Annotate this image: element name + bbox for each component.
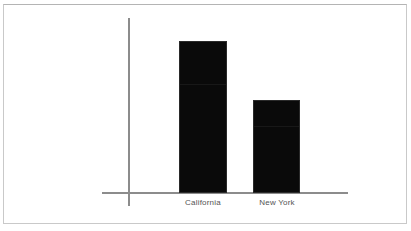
chart-screenshot: California New York — [0, 0, 411, 231]
x-axis-tick-label-california: California — [163, 198, 243, 208]
bar-new-york[interactable] — [253, 100, 300, 193]
x-axis-tick-label-new-york: New York — [237, 198, 317, 208]
bar-california[interactable] — [179, 41, 227, 193]
bar-chart-plot-area: California New York — [0, 0, 411, 231]
y-axis-line — [128, 18, 130, 206]
